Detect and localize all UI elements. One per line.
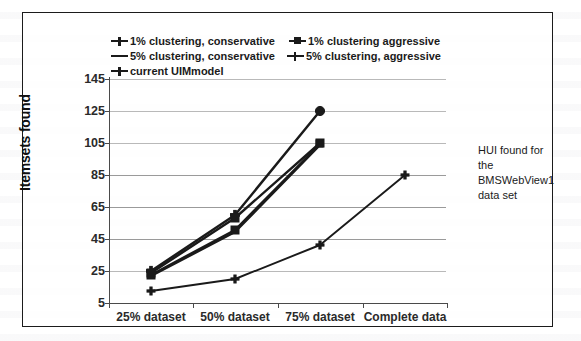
legend-label-1pct-conservative: 1% clustering, conservative	[130, 35, 275, 47]
legend-label-5pct-conservative: 5% clustering, conservative	[130, 50, 275, 62]
annotation-line-3: BMSWebView1	[478, 173, 558, 188]
line-marker-icon	[111, 51, 128, 61]
series-line-1pct-conservative	[151, 111, 320, 271]
chart-figure: Itemsets found 145 125 105 85 65 45 25 5…	[22, 12, 553, 327]
cross-marker-icon	[111, 36, 128, 46]
chart-annotation: HUI found for the BMSWebView1 data set	[478, 143, 558, 202]
annotation-line-2: the	[478, 158, 558, 173]
square-marker-icon	[289, 36, 306, 46]
annotation-line-1: HUI found for	[478, 143, 558, 158]
legend-row-2: 5% clustering, conservative 5% clusterin…	[111, 50, 441, 62]
legend-item-current-uimmodel[interactable]: current UIMmodel	[111, 65, 289, 77]
cross-marker-icon	[287, 51, 304, 61]
legend-item-5pct-conservative[interactable]: 5% clustering, conservative	[111, 50, 287, 62]
series-line-current-uimmodel	[151, 175, 405, 291]
annotation-line-4: data set	[478, 188, 558, 203]
marker-1pct-conservative	[147, 106, 325, 275]
legend-label-5pct-aggressive: 5% clustering, aggressive	[306, 50, 441, 62]
cross-marker-icon	[111, 66, 128, 76]
legend-label-1pct-aggressive: 1% clustering aggressive	[308, 35, 440, 47]
legend-row-1: 1% clustering, conservative 1% clusterin…	[111, 35, 441, 47]
legend-label-current-uimmodel: current UIMmodel	[130, 65, 224, 77]
chart-legend: 1% clustering, conservative 1% clusterin…	[111, 35, 441, 80]
legend-item-5pct-aggressive[interactable]: 5% clustering, aggressive	[287, 50, 441, 62]
legend-item-1pct-conservative[interactable]: 1% clustering, conservative	[111, 35, 289, 47]
legend-item-1pct-aggressive[interactable]: 1% clustering aggressive	[289, 35, 440, 47]
legend-row-3: current UIMmodel	[111, 65, 441, 77]
